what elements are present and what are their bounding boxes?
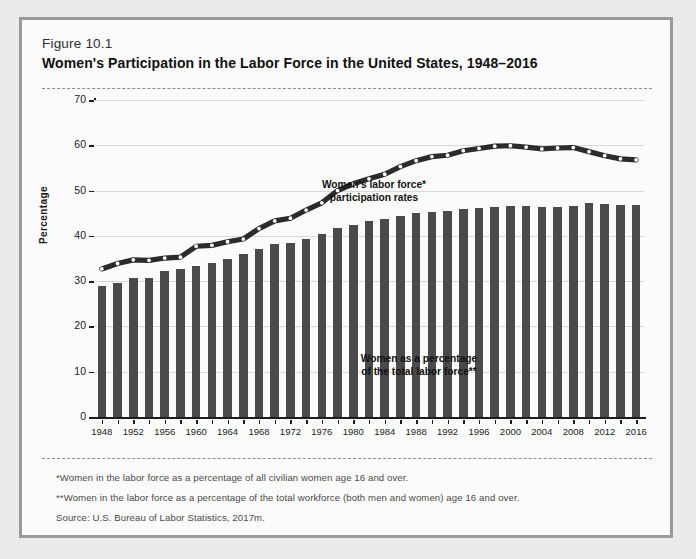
x-axis-tick-mark xyxy=(338,420,339,424)
page-background: Figure 10.1 Women's Participation in the… xyxy=(0,0,696,559)
x-axis-tick-mark xyxy=(118,420,119,424)
line-marker xyxy=(399,165,403,169)
x-axis-tick-mark xyxy=(510,420,511,424)
line-marker xyxy=(556,146,560,150)
divider-bottom xyxy=(42,458,652,459)
line-markers xyxy=(100,144,638,271)
x-axis-tick-mark xyxy=(636,420,637,424)
x-axis-tick-mark xyxy=(573,420,574,424)
line-marker xyxy=(289,216,293,220)
line-marker xyxy=(163,256,167,260)
line-marker xyxy=(210,243,214,247)
x-axis-tick-mark xyxy=(558,420,559,424)
line-marker xyxy=(100,267,104,271)
x-axis-tick-mark xyxy=(275,420,276,424)
y-axis-tick-label: 30 xyxy=(56,274,86,286)
x-axis-tick-mark xyxy=(322,420,323,424)
x-axis-tick-mark xyxy=(353,420,354,424)
line-marker xyxy=(194,244,198,248)
line-marker xyxy=(414,159,418,163)
footnote-two: **Women in the labor force as a percenta… xyxy=(56,492,519,503)
x-axis-tick-mark xyxy=(228,420,229,424)
y-axis-tick-mark xyxy=(89,100,94,102)
y-axis-tick-label: 70 xyxy=(56,93,86,105)
y-axis-label: Percentage xyxy=(38,186,49,244)
x-axis-tick-mark xyxy=(196,420,197,424)
y-axis-tick-label: 10 xyxy=(56,365,86,377)
line-marker xyxy=(304,208,308,212)
line-path xyxy=(102,146,636,269)
y-axis-tick-mark xyxy=(89,191,94,193)
figure-number: Figure 10.1 xyxy=(42,36,113,51)
line-marker xyxy=(477,147,481,151)
x-axis-tick-mark xyxy=(479,420,480,424)
x-axis-tick-mark xyxy=(165,420,166,424)
line-marker xyxy=(257,227,261,231)
x-axis-tick-mark xyxy=(605,420,606,424)
x-axis-tick-mark xyxy=(306,420,307,424)
line-marker xyxy=(226,240,230,244)
line-marker xyxy=(147,258,151,262)
x-axis-tick-mark xyxy=(416,420,417,424)
chart-area: Percentage Women's labor force* particip… xyxy=(42,94,654,442)
line-marker xyxy=(273,219,277,223)
line-marker xyxy=(603,154,607,158)
x-axis-tick-mark xyxy=(620,420,621,424)
x-axis-tick-mark xyxy=(243,420,244,424)
line-marker xyxy=(619,157,623,161)
plot-canvas: Women's labor force* participation rates… xyxy=(94,100,644,417)
y-axis-tick-mark xyxy=(89,281,94,283)
annotation-bar-text2: of the total labor force** xyxy=(361,366,476,377)
x-axis-tick-mark xyxy=(448,420,449,424)
line-marker xyxy=(634,158,638,162)
y-axis-tick-label: 50 xyxy=(56,184,86,196)
annotation-line-text1: Women's labor force* xyxy=(322,179,426,190)
line-marker xyxy=(131,258,135,262)
line-marker xyxy=(430,155,434,159)
line-marker xyxy=(509,144,513,148)
line-marker xyxy=(493,144,497,148)
y-axis-tick-label: 20 xyxy=(56,319,86,331)
y-axis-tick-label: 60 xyxy=(56,138,86,150)
x-axis-tick-mark xyxy=(180,420,181,424)
x-axis-tick-mark xyxy=(526,420,527,424)
figure-title: Women's Participation in the Labor Force… xyxy=(42,55,538,71)
x-axis-tick-mark xyxy=(369,420,370,424)
x-axis-tick-mark xyxy=(432,420,433,424)
line-marker xyxy=(241,237,245,241)
line-marker xyxy=(587,150,591,154)
y-axis-tick-label: 40 xyxy=(56,229,86,241)
divider-top xyxy=(42,88,652,89)
footnote-one: *Women in the labor force as a percentag… xyxy=(56,472,408,483)
x-axis-tick-label: 2016 xyxy=(616,426,656,437)
x-axis-tick-mark xyxy=(149,420,150,424)
line-marker xyxy=(446,153,450,157)
x-axis-tick-mark xyxy=(495,420,496,424)
x-axis-tick-mark xyxy=(463,420,464,424)
x-axis-tick-mark xyxy=(400,420,401,424)
line-marker xyxy=(383,172,387,176)
x-axis-tick-mark xyxy=(542,420,543,424)
y-axis-tick-mark xyxy=(89,236,94,238)
y-axis-tick-mark xyxy=(89,372,94,374)
x-axis-tick-mark xyxy=(212,420,213,424)
line-marker xyxy=(540,147,544,151)
annotation-line-label: Women's labor force* participation rates xyxy=(294,178,454,204)
x-axis-tick-mark xyxy=(102,420,103,424)
line-marker xyxy=(524,145,528,149)
figure-box: Figure 10.1 Women's Participation in the… xyxy=(19,17,673,538)
line-marker xyxy=(461,149,465,153)
annotation-line-text2: participation rates xyxy=(330,192,418,203)
source-note: Source: U.S. Bureau of Labor Statistics,… xyxy=(56,512,265,523)
x-axis-tick-mark xyxy=(589,420,590,424)
x-axis-tick-mark xyxy=(290,420,291,424)
annotation-bar-label: Women as a percentage of the total labor… xyxy=(334,352,504,378)
line-marker xyxy=(571,146,575,150)
y-axis-tick-mark xyxy=(89,326,94,328)
line-marker xyxy=(179,255,183,259)
y-axis-tick-label: 0 xyxy=(56,410,86,422)
line-marker xyxy=(116,262,120,266)
x-axis-tick-mark xyxy=(385,420,386,424)
annotation-bar-text1: Women as a percentage xyxy=(361,353,477,364)
x-axis-tick-mark xyxy=(133,420,134,424)
